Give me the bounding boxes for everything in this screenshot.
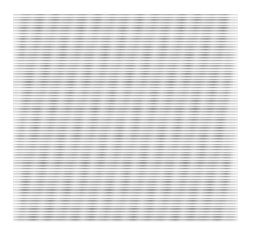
texture-left-fade bbox=[13, 14, 23, 222]
texture-wave-overlay bbox=[13, 14, 238, 222]
texture-right-fade bbox=[226, 14, 238, 222]
